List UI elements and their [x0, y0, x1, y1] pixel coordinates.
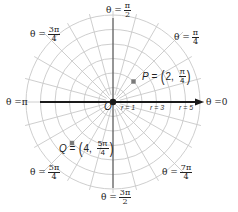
grid-spoke — [113, 102, 183, 172]
grid-spoke — [115, 109, 137, 190]
grid-spoke — [113, 32, 183, 102]
point-p — [131, 79, 135, 83]
point-p-label: P = ( 2, π4 ) — [142, 68, 191, 85]
angle-label-0: θ = 0 — [206, 98, 228, 107]
grid-spoke — [25, 104, 106, 126]
polar-diagram: O r = 1 r = 3 r = 5 θ = 0 θ = π4 θ = π2 … — [0, 0, 238, 212]
point-q-label: Q = ( 4, 5π4 ) — [59, 140, 114, 157]
origin-label: O — [104, 101, 112, 112]
angle-label-5pi-4: θ = 5π4 — [30, 164, 60, 181]
radius-label-3: r = 3 — [150, 104, 164, 111]
angle-label-3pi-4: θ = 3π4 — [30, 26, 60, 43]
arrow-head-icon — [195, 99, 204, 106]
grid-spoke — [43, 102, 113, 172]
angle-label-pi-2: θ = π2 — [106, 2, 131, 19]
grid-spoke — [25, 78, 106, 100]
angle-label-pi: θ = π — [6, 98, 28, 107]
angle-label-3pi-2: θ = 3π2 — [101, 189, 131, 206]
grid-spoke — [89, 14, 111, 95]
radius-label-1: r = 1 — [121, 104, 135, 111]
angle-label-pi-4: θ = π4 — [174, 29, 199, 46]
radius-label-5: r = 5 — [179, 104, 193, 111]
angle-label-7pi-4: θ = 7π4 — [162, 164, 192, 181]
